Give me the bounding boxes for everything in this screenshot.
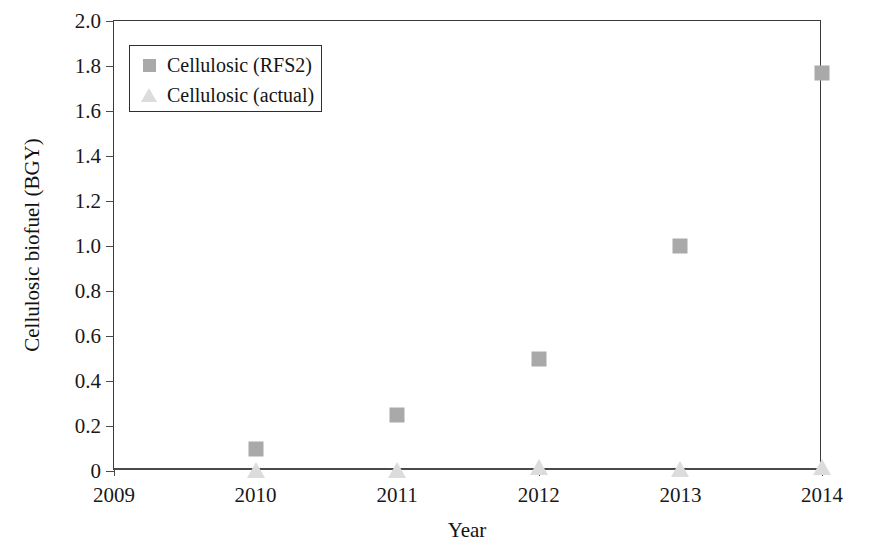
legend-label-actual: Cellulosic (actual) bbox=[167, 85, 314, 105]
data-point-actual-2011 bbox=[388, 462, 406, 478]
legend-label-rfs2: Cellulosic (RFS2) bbox=[167, 55, 312, 75]
y-tick-2.0 bbox=[106, 21, 114, 22]
data-point-actual-2014 bbox=[813, 459, 831, 475]
legend-item-actual: Cellulosic (actual) bbox=[138, 80, 321, 110]
y-tick-0.2 bbox=[106, 426, 114, 427]
y-tick-label-0.2: 0.2 bbox=[75, 416, 101, 437]
x-tick-label-2010: 2010 bbox=[235, 485, 277, 506]
y-tick-0.6 bbox=[106, 336, 114, 337]
data-point-actual-2010 bbox=[247, 462, 265, 478]
y-tick-label-0.8: 0.8 bbox=[75, 281, 101, 302]
y-tick-1.2 bbox=[106, 201, 114, 202]
y-tick-1.4 bbox=[106, 156, 114, 157]
data-point-rfs2-2010 bbox=[248, 441, 263, 456]
legend-triangle-icon bbox=[138, 88, 160, 102]
y-tick-1.0 bbox=[106, 246, 114, 247]
data-point-rfs2-2014 bbox=[815, 65, 830, 80]
y-tick-0.4 bbox=[106, 381, 114, 382]
data-point-rfs2-2013 bbox=[673, 239, 688, 254]
x-tick-label-2009: 2009 bbox=[93, 485, 135, 506]
y-tick-label-0.4: 0.4 bbox=[75, 371, 101, 392]
x-tick-label-2014: 2014 bbox=[801, 485, 843, 506]
y-tick-label-0.6: 0.6 bbox=[75, 326, 101, 347]
data-point-actual-2012 bbox=[530, 459, 548, 475]
data-point-actual-2013 bbox=[671, 461, 689, 477]
y-tick-1.6 bbox=[106, 111, 114, 112]
legend-square-icon bbox=[138, 59, 160, 72]
y-tick-0.8 bbox=[106, 291, 114, 292]
y-tick-label-1.6: 1.6 bbox=[75, 101, 101, 122]
chart-figure: Cellulosic biofuel (BGY) Year 2.0 1.8 1.… bbox=[0, 0, 880, 557]
data-point-rfs2-2012 bbox=[531, 351, 546, 366]
x-tick-label-2012: 2012 bbox=[518, 485, 560, 506]
y-tick-label-1.0: 1.0 bbox=[75, 236, 101, 257]
data-point-rfs2-2011 bbox=[390, 407, 405, 422]
y-tick-label-1.8: 1.8 bbox=[75, 56, 101, 77]
x-tick-label-2013: 2013 bbox=[659, 485, 701, 506]
y-tick-label-1.2: 1.2 bbox=[75, 191, 101, 212]
y-tick-label-0: 0 bbox=[91, 461, 102, 482]
y-tick-label-2.0: 2.0 bbox=[75, 11, 101, 32]
y-tick-label-1.4: 1.4 bbox=[75, 146, 101, 167]
y-tick-0 bbox=[106, 471, 114, 472]
x-tick-2009 bbox=[114, 468, 115, 476]
x-axis-title: Year bbox=[448, 518, 487, 543]
chart-legend: Cellulosic (RFS2) Cellulosic (actual) bbox=[129, 45, 322, 112]
x-tick-label-2011: 2011 bbox=[377, 485, 418, 506]
y-axis-title: Cellulosic biofuel (BGY) bbox=[20, 138, 45, 351]
legend-item-rfs2: Cellulosic (RFS2) bbox=[138, 50, 321, 80]
y-tick-1.8 bbox=[106, 66, 114, 67]
